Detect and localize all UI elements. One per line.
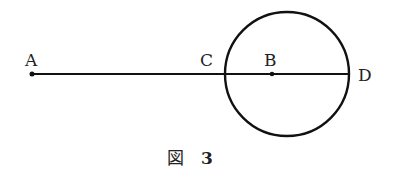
label-c: C xyxy=(200,50,213,70)
point-b-dot xyxy=(270,72,275,77)
caption-number: 3 xyxy=(201,148,213,168)
geometry-figure: A C B D 図 3 xyxy=(0,0,395,177)
point-a-dot xyxy=(30,72,35,77)
caption-prefix: 図 xyxy=(167,148,184,168)
label-a: A xyxy=(24,50,38,70)
label-d: D xyxy=(358,65,372,85)
label-b: B xyxy=(264,50,277,70)
